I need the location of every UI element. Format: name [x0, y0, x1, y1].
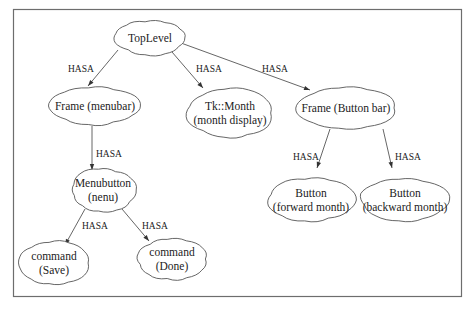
node-title: Button: [295, 187, 327, 199]
edge-frame-buttonbar-to-button-forward: [317, 129, 330, 168]
node-subtitle: (forward month): [273, 201, 349, 214]
node-title: command: [31, 250, 77, 262]
node-title: command: [149, 246, 195, 258]
node-command-done: command(Done): [137, 238, 206, 280]
widget-hierarchy-diagram: TopLevelFrame (menubar)Tk::Month(month d…: [0, 0, 472, 309]
node-menubutton: Menubutton(nenu): [72, 168, 136, 212]
node-subtitle: (backward month): [363, 201, 448, 214]
node-toplevel: TopLevel: [114, 20, 185, 56]
edge-frame-menubar-to-menubutton: [90, 126, 94, 170]
node-tk-month: Tk::Month(month display): [186, 88, 271, 138]
edge-label-hasa: HASA: [395, 152, 421, 162]
edge-frame-buttonbar-to-button-backward: [383, 129, 393, 168]
edge-label-hasa: HASA: [68, 64, 94, 74]
node-title: Frame (menubar): [55, 100, 135, 113]
node-title: Menubutton: [75, 177, 131, 189]
cloud-shape: [268, 178, 357, 222]
node-frame-menubar: Frame (menubar): [48, 87, 140, 126]
node-subtitle: (nenu): [88, 191, 118, 204]
edge-label-hasa: HASA: [196, 64, 222, 74]
node-title: Tk::Month: [205, 100, 255, 112]
edge-label-hasa: HASA: [262, 64, 288, 74]
edge-line: [383, 129, 392, 168]
edge-label-hasa: HASA: [96, 149, 122, 159]
node-subtitle: (Done): [156, 260, 189, 273]
edge-label-hasa: HASA: [142, 221, 168, 231]
node-title: TopLevel: [128, 32, 172, 45]
node-button-forward: Button(forward month): [268, 178, 357, 222]
node-command-save: command(Save): [18, 241, 88, 285]
node-subtitle: (month display): [193, 114, 266, 127]
edges: [65, 43, 393, 245]
edge-line: [317, 129, 330, 168]
edge-label-hasa: HASA: [82, 221, 108, 231]
arrowhead-icon: [304, 86, 310, 90]
node-frame-buttonbar: Frame (Button bar): [296, 87, 395, 130]
node-title: Frame (Button bar): [302, 102, 391, 115]
node-button-backward: Button(backward month): [360, 178, 449, 221]
node-subtitle: (Save): [39, 264, 69, 277]
nodes: TopLevelFrame (menubar)Tk::Month(month d…: [18, 20, 449, 284]
node-title: Button: [389, 187, 421, 199]
cloud-shape: [18, 241, 88, 285]
edge-label-hasa: HASA: [293, 152, 319, 162]
arrowhead-icon: [317, 162, 321, 168]
